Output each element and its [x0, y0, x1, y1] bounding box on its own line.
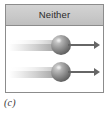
figure-panel-c: Neither (c)	[0, 0, 110, 113]
arrow-shaft-icon	[68, 44, 96, 46]
panel-header: Neither	[6, 5, 103, 26]
panel-header-title: Neither	[39, 10, 70, 20]
figure-caption: (c)	[4, 97, 16, 108]
motion-row	[6, 60, 103, 86]
panel-body	[6, 27, 103, 92]
neither-panel: Neither	[5, 4, 104, 93]
arrow-shaft-icon	[68, 71, 96, 73]
motion-row	[6, 33, 103, 59]
arrow-head-icon	[94, 68, 100, 76]
arrow-head-icon	[94, 41, 100, 49]
